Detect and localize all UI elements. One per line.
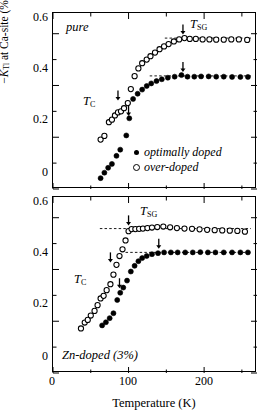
legend: optimally doped over-doped <box>128 145 222 175</box>
y-tick-top-0.6: 0.6 <box>18 11 48 23</box>
legend-item-optimally-doped: optimally doped <box>128 145 222 160</box>
annotation-tc-zn-doped: TC <box>74 272 86 287</box>
y-tick-top-0: 0 <box>18 166 48 178</box>
y-tick-bottom-0.2: 0.2 <box>18 297 48 309</box>
legend-item-over-doped: over-doped <box>128 160 222 175</box>
x-tick-100: 100 <box>111 375 145 387</box>
annotation-tc-pure: TC <box>83 94 95 109</box>
annotation-tc-symbol: T <box>83 94 90 108</box>
annotation-tc-symbol-bottom: T <box>74 272 81 286</box>
annotation-tsg-subscript: SG <box>197 23 207 32</box>
y-axis-label: −KTl at Ca-site (%) <box>0 0 11 125</box>
x-tick-0: 0 <box>35 375 69 387</box>
x-axis-title: Temperature (K) <box>52 396 256 411</box>
annotation-tsg-zn-doped: TSG <box>140 204 157 219</box>
annotation-tsg-pure: TSG <box>190 17 207 32</box>
panel-title-pure: pure <box>66 20 88 35</box>
y-axis-label-k: K <box>0 70 10 78</box>
annotation-tsg-symbol: T <box>190 17 197 31</box>
annotation-tc-subscript: C <box>90 100 95 109</box>
y-axis-label-minus: − <box>0 77 10 84</box>
y-tick-bottom-0.6: 0.6 <box>18 195 48 207</box>
open-circle-icon <box>128 164 144 171</box>
annotation-tsg-symbol-bottom: T <box>140 204 147 218</box>
legend-label-over-doped: over-doped <box>144 160 198 175</box>
y-tick-top-0.2: 0.2 <box>18 113 48 125</box>
legend-label-optimally-doped: optimally doped <box>144 145 222 160</box>
figure-knight-shift-vs-temperature: −KTl at Ca-site (%) pure 0 0.2 0.4 0.6 T… <box>0 0 269 420</box>
annotation-tc-subscript-bottom: C <box>81 278 86 287</box>
panel-title-zn-doped: Zn-doped (3%) <box>62 348 138 363</box>
filled-circle-icon <box>128 150 144 155</box>
y-tick-bottom-0.4: 0.4 <box>18 246 48 258</box>
x-tick-200: 200 <box>187 375 221 387</box>
y-axis-label-rest: at Ca-site (%) <box>0 0 10 63</box>
y-tick-bottom-0: 0 <box>18 350 48 362</box>
y-tick-top-0.4: 0.4 <box>18 62 48 74</box>
y-axis-label-subscript: Tl <box>2 63 11 70</box>
annotation-tsg-subscript-bottom: SG <box>147 210 157 219</box>
